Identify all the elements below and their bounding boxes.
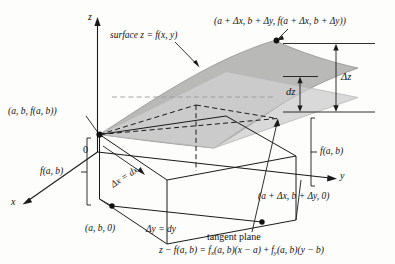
- leader-point-near: [86, 116, 98, 132]
- y-axis-arrowhead: [327, 175, 337, 181]
- y-axis-label: y: [340, 170, 344, 181]
- base-point-far-label: (a + Δx, b + Δy, 0): [258, 191, 329, 202]
- equation-term2-rest: (a, b)(y − b): [277, 245, 324, 255]
- x-axis-label: x: [11, 196, 15, 207]
- leader-surface-label: [175, 42, 197, 64]
- leader-point-far: [279, 29, 288, 38]
- dz-label: dz: [286, 86, 295, 98]
- z-axis-label: z: [88, 11, 92, 22]
- delta-z-arrow-up: [333, 44, 338, 51]
- base-point-near-label: (a, b, 0): [85, 223, 115, 234]
- point-base-far-dot: [259, 219, 264, 224]
- delta-y-label: Δy = dy: [146, 224, 176, 235]
- point-far-label: (a + Δx, b + Δy, f(a + Δx, b + Δy)): [214, 16, 346, 27]
- equation-lhs: z − f(a, b) =: [159, 245, 206, 255]
- delta-z-label: Δz: [341, 71, 351, 83]
- point-base-near-dot: [109, 203, 114, 208]
- point-near-surface-dot: [96, 131, 102, 137]
- surface-label: surface z = f(x, y): [110, 30, 177, 41]
- tangent-plane-equation: z − f(a, b) = fx(a, b)(x − a) + fy(a, b)…: [159, 245, 324, 257]
- ground-edge-dy: [112, 206, 262, 222]
- point-near-label: (a, b, f(a, b)): [8, 106, 57, 117]
- origin-label: 0: [83, 144, 88, 155]
- diagram-canvas: [0, 0, 395, 264]
- height-right-label: f(a, b): [320, 146, 343, 157]
- equation-term1-rest: (a, b)(x − a): [214, 245, 261, 255]
- delta-z-arrow-down: [333, 105, 338, 112]
- tangent-plane-label: tangent plane: [207, 231, 261, 242]
- z-axis-arrowhead: [94, 17, 100, 26]
- tangent-plane-figure: z x y 0 surface z = f(x, y) (a, b, f(a, …: [0, 0, 395, 264]
- height-left-label: f(a, b): [40, 166, 63, 177]
